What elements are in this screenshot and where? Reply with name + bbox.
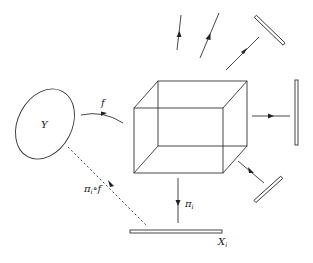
factor-X-i-label: Xi	[217, 236, 227, 249]
set-Y-label: Y	[41, 119, 49, 130]
projection-top-right-arrowhead	[241, 48, 247, 54]
projection-bottom-right-arrowhead	[248, 167, 254, 173]
product-cube	[134, 81, 247, 173]
projection-pi-i-arrowhead	[176, 200, 181, 206]
map-f-label: f	[100, 97, 107, 108]
factor-right-bar	[295, 80, 298, 145]
composite-label: πi∘f	[83, 183, 104, 196]
composite-dashed-arrow	[68, 147, 147, 226]
factor-bottom-right-bar	[254, 176, 283, 202]
projection-up-2-arrowhead	[206, 33, 211, 40]
composite-arrowhead	[108, 180, 114, 187]
projection-pi-i-label: πi	[184, 198, 194, 211]
projection-right-arrowhead	[268, 114, 274, 119]
factor-top-right-bar	[254, 15, 285, 45]
projection-top-right-arrow	[226, 37, 259, 70]
product-diagram: Y f πi∘f πi Xi	[0, 0, 313, 263]
factor-X-i-bar	[130, 230, 222, 233]
